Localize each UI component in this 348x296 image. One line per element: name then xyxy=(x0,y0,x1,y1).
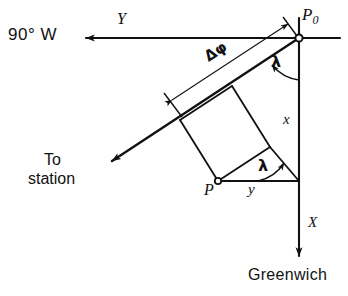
label-point-p0: P0 xyxy=(302,6,318,27)
label-point-p: P xyxy=(204,182,214,199)
point-P0-marker xyxy=(295,34,302,41)
geodetic-diagram: 90° W Y P0 λ Δφ x To station P y λ X Gre… xyxy=(0,0,348,296)
label-lambda-lower: λ xyxy=(258,158,268,175)
label-x-leg: x xyxy=(283,112,290,128)
label-greenwich: Greenwich xyxy=(248,267,327,284)
label-y-leg: y xyxy=(248,182,255,198)
diagram-canvas xyxy=(0,0,348,296)
point-P-marker xyxy=(215,178,221,184)
label-90-west: 90° W xyxy=(8,26,57,44)
lower-triangle-hypotenuse xyxy=(270,147,299,181)
label-to-station-line2: station xyxy=(28,171,75,188)
label-y-axis: Y xyxy=(117,11,126,28)
label-to-station-line1: To xyxy=(44,152,61,169)
parallelogram xyxy=(180,86,270,181)
label-point-p0-subscript: 0 xyxy=(312,13,318,27)
label-lambda-upper: λ xyxy=(271,54,281,71)
label-x-axis: X xyxy=(308,215,317,231)
label-point-p0-letter: P xyxy=(302,5,312,24)
